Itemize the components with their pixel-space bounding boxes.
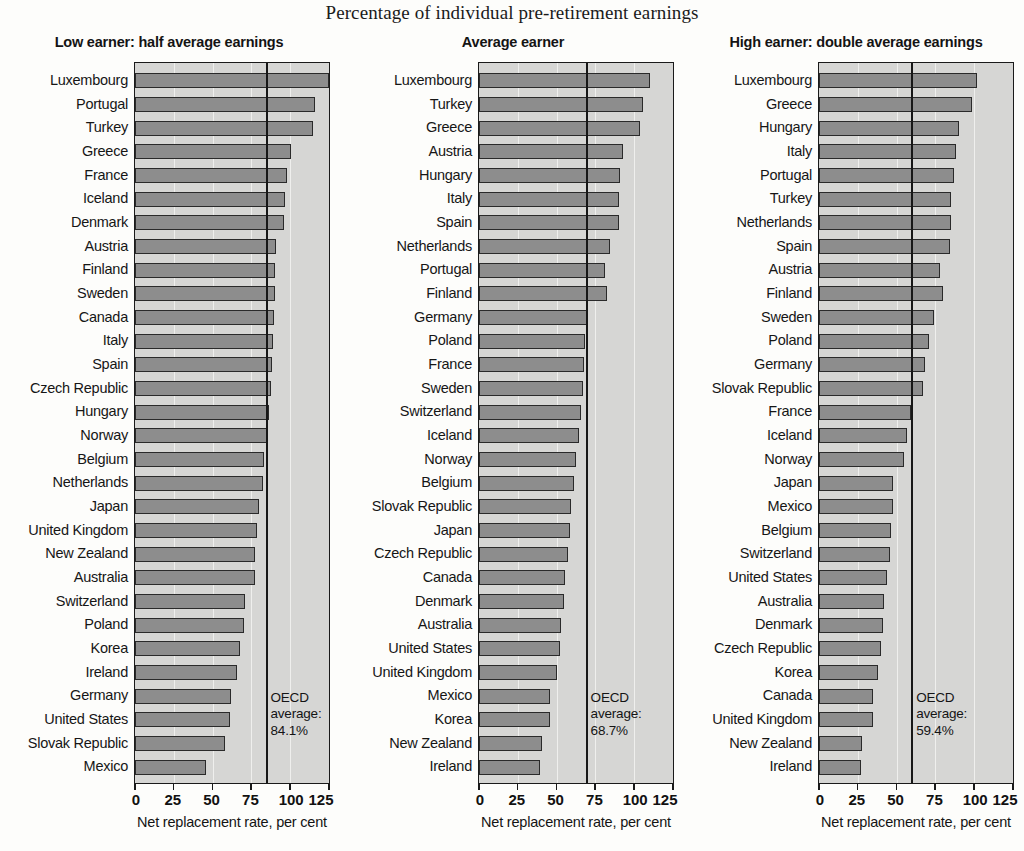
axis-tick [517,784,519,790]
category-label: Slovak Republic [372,499,472,514]
category-label: Mexico [768,499,812,514]
panel-container: Low earner: half average earnings Luxemb… [0,34,1024,851]
bar [135,73,329,88]
axis-tick [289,784,291,790]
category-label: Sweden [421,380,472,395]
category-label: Spain [776,238,812,253]
bar [135,192,285,207]
axis-tick-label: 75 [586,791,603,808]
x-axis: 0255075100125Net replacement rate, per c… [134,784,330,844]
oecd-annotation-line: 59.4% [916,723,967,739]
category-label: Norway [764,451,812,466]
bar [819,641,881,656]
axis-tick-label: 50 [203,791,220,808]
category-label: Portugal [760,167,812,182]
category-label: United States [44,712,128,727]
plot-area: OECDaverage:59.4% [818,62,1014,784]
category-label: Denmark [71,215,128,230]
bar [819,618,883,633]
category-label: Australia [418,617,472,632]
category-label: Germany [414,309,472,324]
category-label: New Zealand [389,735,472,750]
category-label: Greece [82,144,128,159]
bar [479,523,570,538]
oecd-average-annotation: OECDaverage:59.4% [916,690,967,739]
axis-tick [212,784,214,790]
category-label: Luxembourg [734,73,812,88]
bar [819,428,907,443]
category-label: Korea [91,641,128,656]
category-label: Japan [90,499,128,514]
category-label: New Zealand [729,735,812,750]
category-label: Czech Republic [714,641,812,656]
category-label: Finland [766,286,812,301]
category-label: Austria [769,262,812,277]
category-label: Turkey [430,96,472,111]
axis-tick-label: 0 [132,791,140,808]
bar [479,334,585,349]
gridline [290,63,291,783]
bar [819,357,925,372]
category-label: Switzerland [56,593,128,608]
bar [479,381,583,396]
bar [135,239,276,254]
bar [479,121,640,136]
category-label: Belgium [761,522,812,537]
chart-body: LuxembourgGreeceHungaryItalyPortugalTurk… [688,62,1024,784]
category-label: Spain [92,357,128,372]
chart-figure: Percentage of individual pre-retirement … [0,0,1024,851]
category-label: Austria [429,144,472,159]
bar [819,263,940,278]
bar [479,618,561,633]
bar [135,334,273,349]
category-label: Iceland [427,428,472,443]
panel-title: Low earner: half average earnings [0,34,338,50]
bar [135,405,269,420]
axis-tick-label: 100 [963,791,988,808]
axis-tick-label: 50 [547,791,564,808]
bar [479,73,650,88]
oecd-annotation-line: average: [591,706,642,722]
bar [479,547,568,562]
bar [479,144,623,159]
category-label: Hungary [75,404,128,419]
bar [479,215,619,230]
axis-title: Net replacement rate, per cent [137,814,327,830]
category-label: Japan [434,522,472,537]
bar [479,357,584,372]
category-label: Poland [84,617,128,632]
category-label: Mexico [428,688,472,703]
gridline [634,63,635,783]
gridline [673,63,674,783]
chart-body: LuxembourgTurkeyGreeceAustriaHungaryItal… [344,62,682,784]
category-label: Ireland [429,759,472,774]
oecd-annotation-line: average: [916,706,967,722]
oecd-average-line [586,63,588,783]
axis-tick [594,784,596,790]
chart-body: LuxembourgPortugalTurkeyGreeceFranceIcel… [0,62,338,784]
bar [479,192,619,207]
category-label: France [428,357,472,372]
bar [135,547,255,562]
category-label: Mexico [84,759,128,774]
axis-tick [556,784,558,790]
axis-tick [857,784,859,790]
category-label: Czech Republic [30,380,128,395]
bar [479,239,610,254]
bar [135,523,257,538]
plot-area: OECDaverage:84.1% [134,62,330,784]
axis-tick-label: 0 [816,791,824,808]
bar [819,689,873,704]
category-label: Sweden [77,286,128,301]
category-label: Sweden [761,309,812,324]
bar [135,263,275,278]
category-label: Austria [85,238,128,253]
bar [479,97,643,112]
category-label: Belgium [421,475,472,490]
bar [135,499,259,514]
x-axis: 0255075100125Net replacement rate, per c… [478,784,674,844]
bar [135,121,313,136]
category-label: Belgium [77,451,128,466]
category-label: Netherlands [397,238,472,253]
category-label: Turkey [86,120,128,135]
